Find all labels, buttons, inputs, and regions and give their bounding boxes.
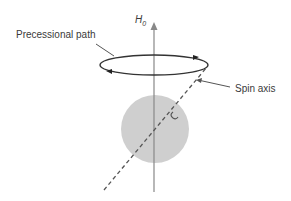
precession-diagram: H0 Precessional path Spin axis bbox=[0, 0, 291, 201]
field-axis-arrowhead-icon bbox=[151, 22, 158, 30]
spin-axis-dashed bbox=[104, 67, 207, 190]
spin-axis-label: Spin axis bbox=[235, 83, 276, 94]
spin-axis-leader-arrowhead-icon bbox=[196, 78, 202, 83]
precession-leader-line bbox=[96, 44, 114, 56]
precessional-path-label: Precessional path bbox=[16, 29, 96, 40]
spin-axis-leader-line bbox=[198, 80, 230, 87]
field-label-subscript: 0 bbox=[142, 20, 146, 27]
field-label: H0 bbox=[135, 14, 146, 27]
